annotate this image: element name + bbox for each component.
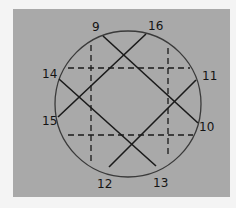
label-10: 10: [199, 120, 214, 134]
label-14: 14: [42, 67, 57, 81]
label-15: 15: [42, 114, 57, 128]
chord-11-12: [109, 80, 196, 167]
label-16: 16: [148, 19, 163, 33]
circle-diagram: 9 16 11 10 13 12 15 14: [0, 0, 236, 208]
outer-circle: [55, 31, 201, 177]
label-11: 11: [202, 69, 217, 83]
label-9: 9: [92, 20, 100, 34]
chord-16-15: [58, 34, 146, 117]
chord-9-10: [103, 36, 198, 123]
label-13: 13: [153, 176, 168, 190]
label-12: 12: [97, 177, 112, 191]
